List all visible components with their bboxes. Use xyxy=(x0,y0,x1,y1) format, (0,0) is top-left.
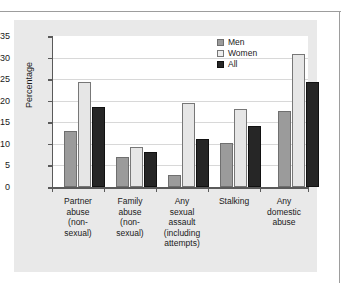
x-category-line: Stalking xyxy=(208,196,260,207)
x-category-line: abuse xyxy=(52,207,104,218)
x-category-label-domestic-abuse: Any domestic abuse xyxy=(258,196,310,228)
page-top-rule xyxy=(0,11,341,12)
x-tick-separator xyxy=(308,187,309,192)
y-tick-label: 30 xyxy=(0,54,10,63)
y-tick-label: 5 xyxy=(0,161,10,170)
figure-page: 35 30 25 20 15 10 5 0 Percentage xyxy=(0,0,345,283)
bar-all-domestic-abuse xyxy=(306,82,319,187)
x-category-label-stalking: Stalking xyxy=(208,196,260,207)
x-category-line: sexual) xyxy=(52,228,104,239)
x-category-line: (including xyxy=(156,228,208,239)
gridline xyxy=(53,101,308,102)
x-category-line: Any xyxy=(258,196,310,207)
chart-legend: Men Women All xyxy=(217,37,257,70)
legend-swatch-women-icon xyxy=(217,50,224,57)
x-category-line: abuse xyxy=(258,217,310,228)
x-tick-separator xyxy=(104,187,105,192)
x-tick-separator xyxy=(52,187,53,192)
x-category-line: Any xyxy=(156,196,208,207)
y-tick-label: 20 xyxy=(0,97,10,106)
bar-all-family-abuse xyxy=(144,152,157,187)
y-tick-label: 25 xyxy=(0,75,10,84)
x-category-line: domestic xyxy=(258,207,310,218)
x-category-line: sexual) xyxy=(104,228,156,239)
chart-figure-panel: 35 30 25 20 15 10 5 0 Percentage xyxy=(14,20,317,272)
y-tick-label: 35 xyxy=(0,32,10,41)
legend-item-all: All xyxy=(217,59,257,69)
y-tick-label: 0 xyxy=(0,183,10,192)
bar-men-stalking xyxy=(220,143,233,187)
x-category-line: Partner xyxy=(52,196,104,207)
gridline xyxy=(53,79,308,80)
bar-women-sexual-assault xyxy=(182,103,195,187)
x-tick-separator xyxy=(260,187,261,192)
x-category-line: (non- xyxy=(104,217,156,228)
y-tick-label: 15 xyxy=(0,118,10,127)
x-category-label-sexual-assault: Any sexual assault (including attempts) xyxy=(156,196,208,249)
bar-all-partner-abuse xyxy=(92,107,105,187)
x-category-line: assault xyxy=(156,217,208,228)
legend-label-men: Men xyxy=(228,37,245,47)
y-tick-label: 10 xyxy=(0,140,10,149)
bar-all-sexual-assault xyxy=(196,139,209,187)
bar-all-stalking xyxy=(248,126,261,187)
x-category-line: Family xyxy=(104,196,156,207)
legend-label-women: Women xyxy=(228,48,257,58)
y-axis-title: Percentage xyxy=(24,30,34,140)
bar-men-partner-abuse xyxy=(64,131,77,187)
legend-item-women: Women xyxy=(217,48,257,58)
page-right-rule xyxy=(339,11,340,283)
bar-women-stalking xyxy=(234,109,247,187)
legend-label-all: All xyxy=(228,59,237,69)
x-tick-separator xyxy=(208,187,209,192)
x-category-label-family-abuse: Family abuse (non- sexual) xyxy=(104,196,156,238)
legend-swatch-all-icon xyxy=(217,61,224,68)
bar-men-domestic-abuse xyxy=(278,111,291,187)
x-category-line: abuse xyxy=(104,207,156,218)
gridline xyxy=(53,58,308,59)
x-category-line: attempts) xyxy=(156,238,208,249)
bar-men-sexual-assault xyxy=(168,175,181,187)
bar-women-family-abuse xyxy=(130,147,143,187)
bar-women-partner-abuse xyxy=(78,82,91,187)
x-category-line: sexual xyxy=(156,207,208,218)
plot-inner xyxy=(53,36,308,187)
legend-swatch-men-icon xyxy=(217,39,224,46)
x-axis-line xyxy=(52,187,309,189)
x-tick-separator xyxy=(156,187,157,192)
plot-area xyxy=(52,36,308,187)
legend-item-men: Men xyxy=(217,37,257,47)
x-category-line: (non- xyxy=(52,217,104,228)
bar-women-domestic-abuse xyxy=(292,54,305,187)
bar-men-family-abuse xyxy=(116,157,129,187)
x-category-label-partner-abuse: Partner abuse (non- sexual) xyxy=(52,196,104,238)
